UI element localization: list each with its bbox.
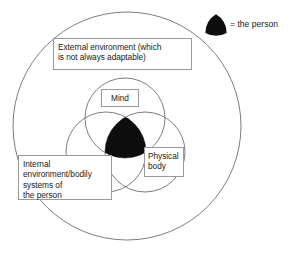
- venn-diagram: External environment (which is not alway…: [0, 0, 296, 253]
- person-marker-icon: [203, 12, 229, 38]
- legend: = the person: [203, 12, 293, 40]
- external-environment-label: External environment (which is not alway…: [53, 38, 192, 70]
- physical-body-label: Physical body: [144, 147, 184, 177]
- internal-environment-label: Internal environment/bodily systems of t…: [18, 155, 112, 200]
- mind-label: Mind: [101, 89, 139, 107]
- legend-label: = the person: [230, 19, 278, 30]
